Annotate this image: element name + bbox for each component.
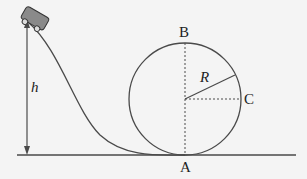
loop-diagram: h B A C R — [0, 0, 307, 179]
radius-line — [185, 75, 235, 99]
point-c-label: C — [244, 91, 254, 107]
height-label: h — [31, 79, 39, 95]
track-curve — [28, 22, 185, 155]
cart-icon — [18, 6, 49, 34]
point-b-label: B — [179, 24, 189, 40]
height-arrow — [24, 19, 30, 155]
radius-label: R — [199, 69, 209, 85]
point-a-label: A — [180, 159, 191, 175]
